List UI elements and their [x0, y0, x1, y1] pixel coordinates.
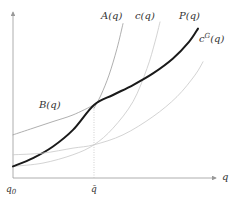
series-label: B(q)	[38, 99, 61, 110]
series-line-aq	[94, 24, 123, 109]
chart: q q0q̄ A(q)c(q)P(q)cG(q)B(q)	[0, 0, 241, 198]
x-tick-label: q̄	[91, 184, 97, 194]
x-tick-label: q0	[6, 184, 17, 196]
x-axis-label: q	[222, 171, 228, 182]
series-label: c(q)	[135, 10, 155, 21]
series-line-pq	[13, 29, 198, 167]
series-label: cG(q)	[199, 32, 225, 44]
series-label: A(q)	[100, 10, 123, 21]
series-line-cq	[13, 22, 160, 166]
series-label: P(q)	[178, 10, 200, 21]
